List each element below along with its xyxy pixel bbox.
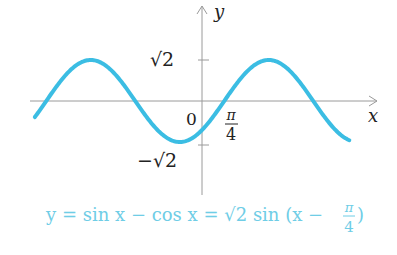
caption-lhs: y = sin x − cos x = <box>45 204 224 225</box>
x-tick-label-pi-over-4: π 4 <box>225 107 238 144</box>
caption-frac-num: π <box>344 200 354 215</box>
y-tick-label-neg-sqrt2: −√2 <box>137 149 177 171</box>
y-tick-label-sqrt2: √2 <box>150 48 174 70</box>
svg-text:y = sin x − cos x = √2 sin (x: y = sin x − cos x = √2 sin (x − <box>45 204 323 225</box>
x-tick-label-num: π <box>225 107 236 123</box>
caption-rhs: sin (x − <box>247 204 323 225</box>
y-axis-label: y <box>213 1 225 22</box>
x-axis-label: x <box>368 105 378 126</box>
caption-formula: y = sin x − cos x = √2 sin (x − π 4 ) <box>45 200 364 236</box>
caption-sqrt2: √2 <box>224 204 247 225</box>
caption-frac-den: 4 <box>344 218 354 236</box>
sine-chart: y x 0 √2 −√2 π 4 y = sin x − cos x = √2 … <box>0 0 397 255</box>
origin-label: 0 <box>186 109 197 129</box>
x-tick-label-den: 4 <box>226 125 236 144</box>
caption-close-paren: ) <box>357 204 364 225</box>
